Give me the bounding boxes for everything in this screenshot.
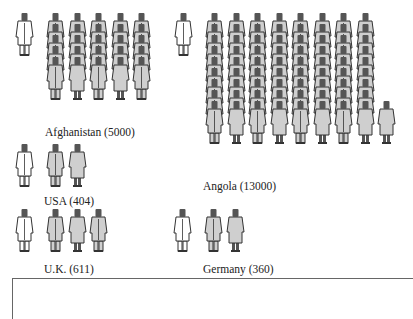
person-figure-icon — [45, 208, 66, 256]
person-figure-icon — [131, 56, 152, 104]
country-label: Afghanistan (5000) — [45, 126, 135, 138]
doctor-figure-icon — [172, 208, 193, 256]
person-figure-icon — [110, 56, 131, 104]
person-figure-icon — [225, 208, 246, 256]
country-label: U.K. (611) — [44, 263, 94, 275]
doctor-figure-icon — [173, 12, 194, 60]
person-figure-icon — [333, 100, 354, 148]
person-figure-icon — [312, 100, 333, 148]
country-label: Germany (360) — [203, 263, 274, 275]
person-figure-icon — [203, 208, 224, 256]
person-figure-icon — [67, 143, 88, 191]
person-figure-icon — [67, 56, 88, 104]
person-figure-icon — [45, 143, 66, 191]
person-figure-icon — [45, 56, 66, 104]
person-figure-icon — [67, 208, 88, 256]
person-figure-icon — [376, 100, 397, 148]
doctor-figure-icon — [14, 208, 35, 256]
person-figure-icon — [269, 100, 290, 148]
country-label: USA (404) — [44, 195, 94, 207]
person-figure-icon — [355, 100, 376, 148]
doctor-figure-icon — [14, 12, 35, 60]
person-figure-icon — [226, 100, 247, 148]
person-figure-icon — [88, 56, 109, 104]
person-figure-icon — [290, 100, 311, 148]
person-figure-icon — [247, 100, 268, 148]
person-figure-icon — [88, 208, 109, 256]
country-label: Angola (13000) — [203, 180, 276, 192]
person-figure-icon — [204, 100, 225, 148]
caption-box — [12, 278, 413, 319]
doctor-figure-icon — [14, 143, 35, 191]
